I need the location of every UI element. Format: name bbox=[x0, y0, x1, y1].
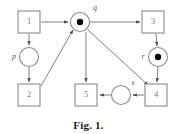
place-label-r: r bbox=[141, 52, 145, 61]
transition-label-1: 1 bbox=[27, 16, 31, 26]
transition-label-2: 2 bbox=[27, 89, 31, 99]
transition-3[interactable]: 3 bbox=[142, 11, 164, 33]
place-p[interactable]: p bbox=[11, 48, 39, 67]
arc-q-to-t4 bbox=[88, 30, 148, 85]
transition-5[interactable]: 5 bbox=[75, 84, 97, 106]
arc-t3-to-r bbox=[156, 34, 157, 46]
place-r[interactable]: r bbox=[141, 48, 167, 67]
place-q[interactable]: q bbox=[71, 3, 98, 32]
place-circle-p[interactable] bbox=[20, 48, 39, 67]
figure-caption: Fig. 1. bbox=[0, 119, 177, 131]
place-label-p: p bbox=[11, 52, 16, 61]
place-label-s: s bbox=[131, 78, 134, 87]
nodes-layer: 13254qprs bbox=[11, 3, 168, 106]
arc-t2-to-q bbox=[41, 30, 73, 86]
token-r bbox=[155, 54, 161, 60]
place-s[interactable]: s bbox=[112, 78, 135, 105]
petri-net-diagram: 13254qprs bbox=[0, 0, 177, 134]
place-label-q: q bbox=[93, 3, 97, 12]
transition-label-3: 3 bbox=[151, 16, 155, 26]
transition-1[interactable]: 1 bbox=[18, 11, 40, 33]
figure-container: 13254qprs Fig. 1. bbox=[0, 0, 177, 134]
token-q bbox=[77, 19, 83, 25]
arc-r-to-t4 bbox=[157, 67, 158, 82]
transition-4[interactable]: 4 bbox=[145, 84, 167, 106]
transition-label-5: 5 bbox=[84, 89, 88, 99]
transition-2[interactable]: 2 bbox=[18, 84, 40, 106]
place-circle-s[interactable] bbox=[112, 86, 131, 105]
